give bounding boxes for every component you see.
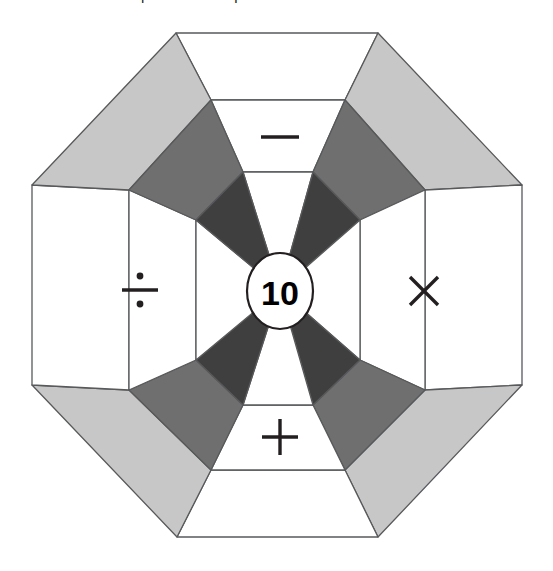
center-value-label: 10 xyxy=(261,274,299,312)
sector-right-ring-middle[interactable] xyxy=(360,190,425,390)
octagon-target-diagram: 10 xyxy=(0,0,553,571)
sector-right-ring-outer[interactable] xyxy=(425,185,522,390)
sector-left-ring-outer[interactable] xyxy=(32,185,129,390)
octagon-target-svg: 10 xyxy=(0,0,553,571)
sector-bottom-ring-outer[interactable] xyxy=(177,470,378,537)
